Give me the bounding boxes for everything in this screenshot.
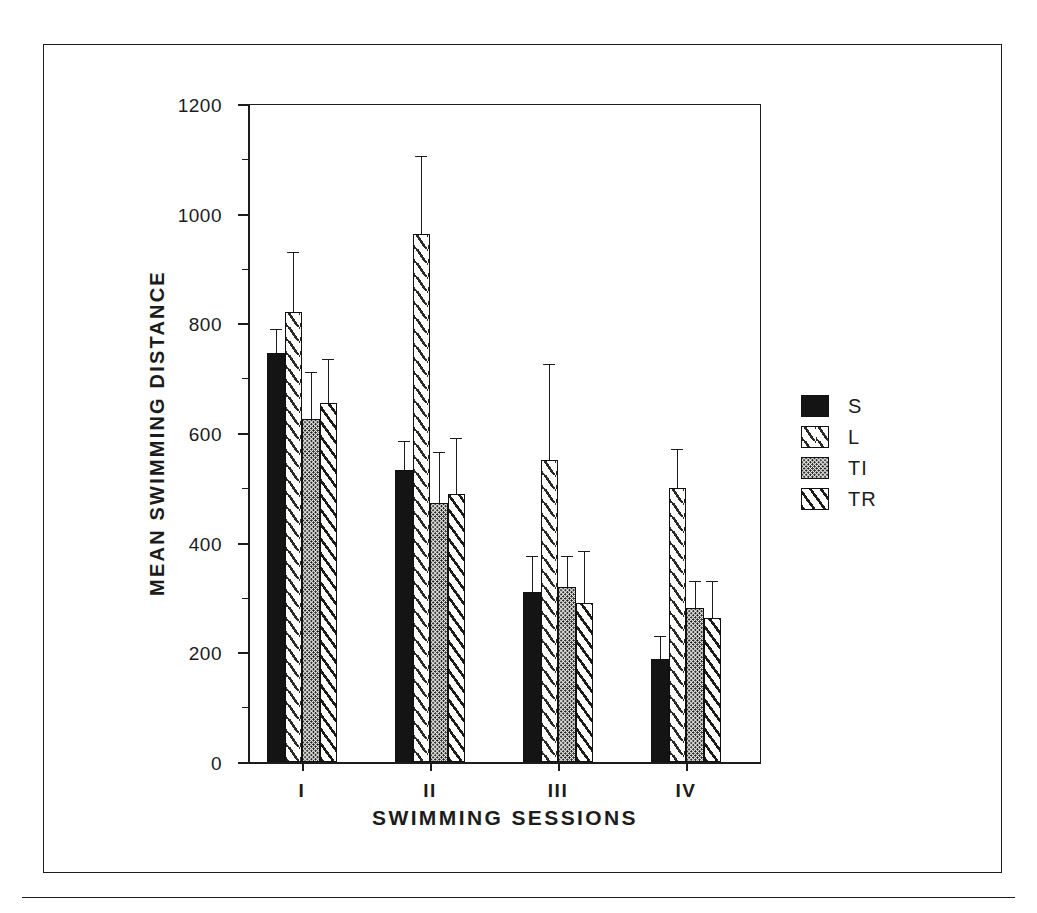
- legend: SLTITR: [801, 392, 877, 516]
- error-bar-stem: [328, 359, 329, 403]
- error-bar-cap: [578, 551, 590, 552]
- y-tick-label: 0: [211, 753, 222, 775]
- bar-l-session-i: [285, 312, 303, 762]
- bar-s-session-i: [267, 353, 285, 762]
- bar-ti-session-iv: [686, 608, 704, 762]
- error-bar-cap: [671, 449, 683, 450]
- error-bar-cap: [706, 581, 718, 582]
- y-tick-label: 800: [189, 314, 222, 336]
- x-axis-line: [248, 762, 761, 764]
- error-bar-stem: [549, 364, 550, 460]
- bar-s-session-ii: [395, 470, 413, 762]
- bar-l-session-iv: [669, 488, 687, 762]
- legend-item-l[interactable]: L: [801, 423, 877, 451]
- bar-tr-session-i: [320, 403, 338, 762]
- error-bar-stem: [695, 581, 696, 608]
- bar-ti-session-ii: [430, 503, 448, 762]
- x-tick-label: III: [548, 780, 568, 802]
- legend-label: S: [848, 395, 862, 418]
- error-bar-stem: [421, 156, 422, 234]
- y-tick-minor: [242, 269, 249, 270]
- legend-swatch-icon: [801, 457, 829, 479]
- legend-item-s[interactable]: S: [801, 392, 877, 420]
- bar-tr-session-iii: [576, 603, 594, 762]
- x-tick: [302, 762, 304, 771]
- y-tick-minor: [242, 707, 249, 708]
- y-tick-minor: [242, 488, 249, 489]
- plot-area: 020040060080010001200 IIIIIIIV: [249, 104, 761, 762]
- error-bar-cap: [654, 636, 666, 637]
- y-tick-label: 600: [189, 424, 222, 446]
- x-tick: [558, 762, 560, 771]
- error-bar-stem: [567, 556, 568, 586]
- y-tick-major: 0: [238, 762, 249, 764]
- error-bar-cap: [433, 452, 445, 453]
- bar-l-session-ii: [413, 234, 431, 762]
- legend-item-tr[interactable]: TR: [801, 485, 877, 513]
- legend-swatch-icon: [801, 488, 829, 510]
- error-bar-cap: [305, 372, 317, 373]
- error-bar-stem: [584, 551, 585, 603]
- bar-ti-session-i: [302, 419, 320, 762]
- plot-right-border: [760, 104, 761, 762]
- y-tick-label: 1200: [178, 95, 222, 117]
- y-tick-major: 800: [238, 323, 249, 325]
- legend-label: TR: [848, 488, 877, 511]
- error-bar-stem: [712, 581, 713, 618]
- error-bar-cap: [561, 556, 573, 557]
- plot-top-border: [248, 104, 761, 105]
- x-tick: [430, 762, 432, 771]
- error-bar-cap: [526, 556, 538, 557]
- error-bar-stem: [276, 329, 277, 354]
- legend-label: TI: [848, 457, 868, 480]
- error-bar-cap: [287, 252, 299, 253]
- error-bar-stem: [404, 441, 405, 470]
- error-bar-cap: [450, 438, 462, 439]
- legend-swatch-icon: [801, 426, 829, 448]
- y-axis-title: MEAN SWIMMING DISTANCE: [143, 104, 171, 762]
- x-tick: [686, 762, 688, 771]
- bar-l-session-iii: [541, 460, 559, 762]
- bar-ti-session-iii: [558, 587, 576, 762]
- x-tick-label: I: [299, 780, 306, 802]
- error-bar-stem: [439, 452, 440, 502]
- error-bar-cap: [398, 441, 410, 442]
- y-tick-label: 200: [189, 643, 222, 665]
- y-tick-major: 400: [238, 543, 249, 545]
- y-tick-major: 200: [238, 652, 249, 654]
- legend-item-ti[interactable]: TI: [801, 454, 877, 482]
- error-bar-cap: [689, 581, 701, 582]
- x-tick-label: IV: [676, 780, 697, 802]
- y-tick-minor: [242, 159, 249, 160]
- y-tick-label: 400: [189, 534, 222, 556]
- error-bar-cap: [415, 156, 427, 157]
- error-bar-stem: [660, 636, 661, 659]
- error-bar-stem: [456, 438, 457, 494]
- x-tick-label: II: [423, 780, 437, 802]
- legend-swatch-icon: [801, 395, 829, 417]
- bar-s-session-iv: [651, 659, 669, 762]
- y-tick-major: 1200: [238, 104, 249, 106]
- y-tick-label: 1000: [178, 205, 222, 227]
- y-tick-minor: [242, 378, 249, 379]
- legend-label: L: [848, 426, 860, 449]
- bar-tr-session-iv: [704, 618, 722, 762]
- y-tick-minor: [242, 598, 249, 599]
- y-tick-major: 600: [238, 433, 249, 435]
- y-tick-major: 1000: [238, 214, 249, 216]
- error-bar-stem: [311, 372, 312, 420]
- x-axis-title: SWIMMING SESSIONS: [249, 806, 761, 830]
- bottom-horizontal-rule: [22, 897, 1015, 898]
- error-bar-stem: [532, 556, 533, 592]
- error-bar-cap: [270, 329, 282, 330]
- error-bar-stem: [293, 252, 294, 312]
- bar-tr-session-ii: [448, 494, 466, 762]
- error-bar-cap: [543, 364, 555, 365]
- figure-root: MEAN SWIMMING DISTANCE SWIMMING SESSIONS…: [0, 0, 1037, 913]
- error-bar-stem: [677, 449, 678, 487]
- bar-s-session-iii: [523, 592, 541, 762]
- error-bar-cap: [322, 359, 334, 360]
